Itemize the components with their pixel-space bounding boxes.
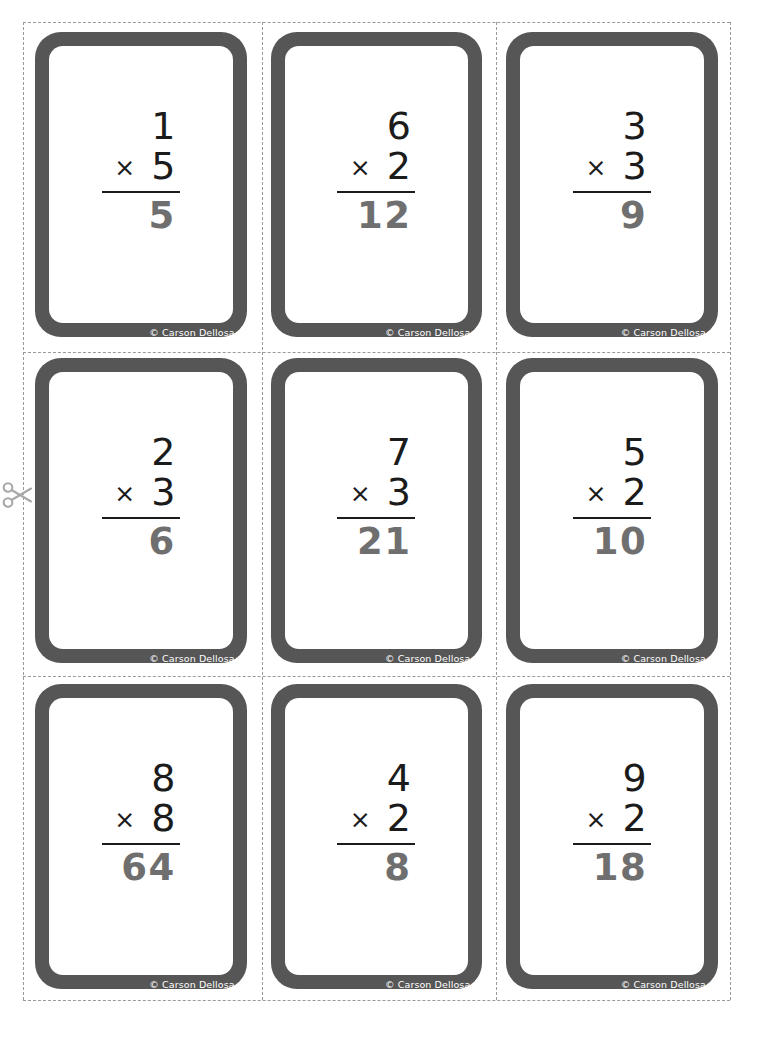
problem-top-row: 3 [573,106,651,146]
card-cell: 1 × 5 5 © Carson Dellosa [23,22,259,348]
problem-rule [337,191,415,193]
problem-answer: 64 [102,848,180,887]
multiplication-problem: 4 × 2 8 [337,758,415,887]
flash-card[interactable]: 1 × 5 5 © Carson Dellosa [35,32,247,337]
operand-bottom: 2 [622,472,651,512]
card-copyright: © Carson Dellosa [385,653,470,664]
problem-top-row: 4 [337,758,415,798]
problem-bottom-row: × 5 [102,146,180,186]
problem-answer: 12 [337,196,415,235]
card-cell: 7 × 3 21 © Carson Dellosa [259,348,495,674]
flash-card[interactable]: 4 × 2 8 © Carson Dellosa [271,684,483,989]
problem-top-row: 6 [337,106,415,146]
flashcard-sheet: 1 × 5 5 © Carson Dellosa [0,0,765,1039]
operand-bottom: 8 [151,798,180,838]
problem-answer: 6 [102,522,180,561]
operator-symbol: × [350,805,371,834]
card-face: 7 × 3 21 [285,372,469,649]
multiplication-problem: 7 × 3 21 [337,432,415,561]
flash-card[interactable]: 9 × 2 18 © Carson Dellosa [506,684,718,989]
operator-symbol: × [114,153,135,182]
flash-card[interactable]: 6 × 2 12 © Carson Dellosa [271,32,483,337]
card-copyright: © Carson Dellosa [621,979,706,990]
flash-card[interactable]: 2 × 3 6 © Carson Dellosa [35,358,247,663]
operand-top: 7 [387,432,416,472]
operand-top: 3 [622,106,651,146]
multiplication-problem: 6 × 2 12 [337,106,415,235]
card-copyright: © Carson Dellosa [621,327,706,338]
flash-card[interactable]: 7 × 3 21 © Carson Dellosa [271,358,483,663]
card-cell: 9 × 2 18 © Carson Dellosa [494,674,730,1000]
problem-answer: 5 [102,196,180,235]
card-copyright: © Carson Dellosa [385,979,470,990]
card-face: 9 × 2 18 [520,698,704,975]
operand-top: 6 [387,106,416,146]
problem-top-row: 9 [573,758,651,798]
operand-top: 5 [622,432,651,472]
problem-bottom-row: × 2 [573,472,651,512]
operand-top: 2 [151,432,180,472]
multiplication-problem: 9 × 2 18 [573,758,651,887]
card-copyright: © Carson Dellosa [385,327,470,338]
problem-rule [102,517,180,519]
flashcard-grid: 1 × 5 5 © Carson Dellosa [23,22,730,1000]
operator-symbol: × [586,153,607,182]
card-copyright: © Carson Dellosa [149,327,234,338]
card-cell: 8 × 8 64 © Carson Dellosa [23,674,259,1000]
operand-top: 1 [151,106,180,146]
problem-answer: 9 [573,196,651,235]
card-cell: 3 × 3 9 © Carson Dellosa [494,22,730,348]
problem-bottom-row: × 3 [573,146,651,186]
problem-bottom-row: × 2 [573,798,651,838]
problem-bottom-row: × 2 [337,798,415,838]
card-face: 5 × 2 10 [520,372,704,649]
multiplication-problem: 1 × 5 5 [102,106,180,235]
multiplication-problem: 5 × 2 10 [573,432,651,561]
problem-rule [102,843,180,845]
cut-line-horizontal-bottom [23,1000,730,1001]
problem-rule [573,191,651,193]
operator-symbol: × [350,479,371,508]
operator-symbol: × [114,805,135,834]
problem-top-row: 2 [102,432,180,472]
operand-bottom: 2 [387,146,416,186]
operand-top: 8 [151,758,180,798]
flash-card[interactable]: 3 × 3 9 © Carson Dellosa [506,32,718,337]
flash-card[interactable]: 8 × 8 64 © Carson Dellosa [35,684,247,989]
multiplication-problem: 2 × 3 6 [102,432,180,561]
problem-rule [102,191,180,193]
problem-answer: 10 [573,522,651,561]
problem-rule [337,517,415,519]
card-copyright: © Carson Dellosa [621,653,706,664]
problem-rule [573,843,651,845]
card-face: 2 × 3 6 [49,372,233,649]
card-face: 4 × 2 8 [285,698,469,975]
problem-answer: 21 [337,522,415,561]
problem-answer: 8 [337,848,415,887]
operator-symbol: × [350,153,371,182]
operand-bottom: 2 [387,798,416,838]
cut-line-vertical-right [730,22,731,1000]
card-copyright: © Carson Dellosa [149,653,234,664]
operator-symbol: × [586,805,607,834]
problem-top-row: 1 [102,106,180,146]
card-face: 1 × 5 5 [49,46,233,323]
operand-top: 9 [622,758,651,798]
card-face: 3 × 3 9 [520,46,704,323]
operand-bottom: 3 [622,146,651,186]
operand-top: 4 [387,758,416,798]
multiplication-problem: 3 × 3 9 [573,106,651,235]
card-cell: 5 × 2 10 © Carson Dellosa [494,348,730,674]
problem-bottom-row: × 3 [337,472,415,512]
operand-bottom: 2 [622,798,651,838]
problem-top-row: 7 [337,432,415,472]
card-cell: 2 × 3 6 © Carson Dellosa [23,348,259,674]
operator-symbol: × [586,479,607,508]
operand-bottom: 5 [151,146,180,186]
flash-card[interactable]: 5 × 2 10 © Carson Dellosa [506,358,718,663]
operand-bottom: 3 [151,472,180,512]
problem-rule [337,843,415,845]
operand-bottom: 3 [387,472,416,512]
problem-answer: 18 [573,848,651,887]
problem-bottom-row: × 2 [337,146,415,186]
